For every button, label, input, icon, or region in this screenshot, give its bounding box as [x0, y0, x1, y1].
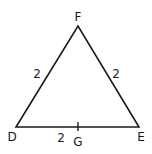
triangle-figure: F D E G 2 2 2 [0, 0, 152, 154]
vertex-label-D: D [7, 130, 16, 144]
side-label-DG: 2 [57, 131, 65, 145]
vertex-label-E: E [137, 130, 145, 144]
side-label-FE: 2 [112, 67, 120, 81]
vertex-label-F: F [75, 10, 82, 24]
triangle-diagram: F D E G 2 2 2 [0, 0, 152, 154]
point-label-G: G [73, 135, 82, 149]
side-label-DF: 2 [33, 67, 41, 81]
